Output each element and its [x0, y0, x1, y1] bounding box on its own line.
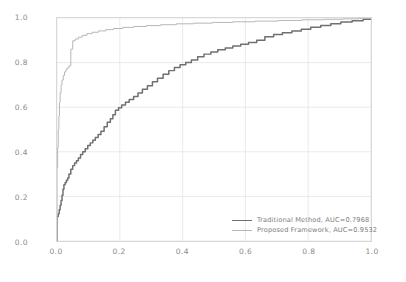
y-tick-label: 1.0: [0, 13, 28, 22]
legend-line-swatch: [232, 230, 252, 231]
x-tick-label: 0.8: [289, 247, 329, 256]
x-tick-label: 0.4: [162, 247, 202, 256]
legend-label: Proposed Framework, AUC=0.9532: [257, 226, 377, 234]
x-tick-label: 0.0: [36, 247, 76, 256]
roc-curve-figure: 0.00.20.40.60.81.0 0.00.20.40.60.81.0 Tr…: [0, 0, 406, 282]
legend-line-swatch: [232, 220, 252, 221]
y-tick-label: 0.6: [0, 103, 28, 112]
legend-label: Traditional Method, AUC=0.7968: [257, 216, 369, 224]
x-tick-label: 0.6: [226, 247, 266, 256]
roc-curve-series-0: [57, 19, 371, 241]
chart-legend: Traditional Method, AUC=0.7968Proposed F…: [232, 216, 368, 234]
legend-item[interactable]: Proposed Framework, AUC=0.9532: [232, 226, 368, 234]
y-tick-label: 0.4: [0, 148, 28, 157]
legend-item[interactable]: Traditional Method, AUC=0.7968: [232, 216, 368, 224]
y-tick-label: 0.0: [0, 238, 28, 247]
plot-area: [56, 17, 372, 242]
roc-curves: [57, 18, 371, 241]
x-tick-label: 1.0: [352, 247, 392, 256]
y-tick-label: 0.2: [0, 193, 28, 202]
y-tick-label: 0.8: [0, 58, 28, 67]
x-tick-label: 0.2: [99, 247, 139, 256]
